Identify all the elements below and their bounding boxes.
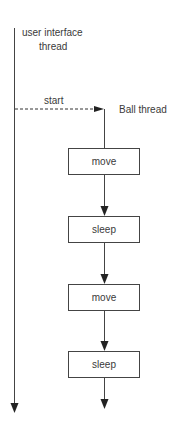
start-label: start (44, 95, 63, 107)
step-label: move (92, 156, 116, 167)
ui-thread-timeline (11, 28, 19, 413)
ui-thread-label-line1: user interface (22, 27, 83, 39)
step-label: sleep (92, 224, 116, 235)
step-sleep-1: sleep (68, 216, 140, 243)
ui-thread-label: user interface thread (22, 27, 83, 53)
step-label: sleep (92, 359, 116, 370)
ui-thread-label-line2: thread (22, 41, 83, 53)
step-label: move (92, 292, 116, 303)
step-sleep-2: sleep (68, 351, 140, 378)
ball-thread-label: Ball thread (119, 104, 167, 116)
step-move-1: move (68, 148, 140, 175)
step-move-2: move (68, 284, 140, 311)
start-arrow (15, 106, 105, 148)
